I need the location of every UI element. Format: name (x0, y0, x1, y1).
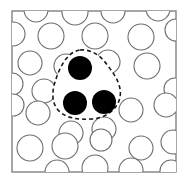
open-circle (128, 24, 154, 50)
open-circle (154, 93, 178, 117)
bottom-left-particle (63, 91, 87, 115)
bottom-right-particle (92, 90, 116, 114)
particle-cluster-figure (0, 0, 189, 186)
open-circle (26, 101, 50, 125)
open-circle (18, 51, 42, 75)
open-circle (38, 23, 64, 49)
top-particle (68, 56, 92, 80)
open-circle (129, 136, 153, 160)
open-circle (119, 98, 143, 122)
open-circle (82, 23, 108, 49)
open-circle (52, 133, 78, 159)
open-circle (17, 135, 43, 161)
figure-container (0, 0, 189, 186)
open-circle (90, 129, 112, 151)
open-circle (134, 53, 160, 79)
